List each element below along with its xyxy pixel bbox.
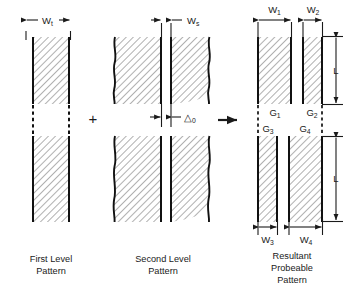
resultant-bar-upper-right <box>303 37 322 104</box>
caption-second-level-line-2: Pattern <box>148 266 178 276</box>
caption-resultant-line-3: Pattern <box>277 275 307 285</box>
resultant-bar-lower-left <box>258 136 277 222</box>
label-l-upper: L <box>333 65 338 76</box>
first-level-bar-upper <box>33 37 69 104</box>
caption-second-level-line-1: Second Level <box>135 254 191 264</box>
resultant-bar-lower-right <box>289 136 322 222</box>
caption-resultant: Resultant Probeable Pattern <box>271 251 313 285</box>
second-level-bar-left-lower <box>114 136 161 222</box>
caption-resultant-line-2: Probeable <box>271 263 313 273</box>
second-level-bar-right-upper <box>171 37 210 104</box>
label-l-lower: L <box>333 173 338 184</box>
operator-plus: + <box>89 110 98 127</box>
caption-first-level-line-1: First Level <box>30 254 72 264</box>
first-level-bar-lower <box>33 136 69 222</box>
second-level-bar-left-upper <box>114 37 161 104</box>
caption-resultant-line-1: Resultant <box>273 251 312 261</box>
overlay-pattern-diagram: Wt + <box>0 0 350 292</box>
resultant-bar-upper-left <box>258 37 291 104</box>
figure-container: Wt + <box>0 0 350 292</box>
caption-first-level-line-2: Pattern <box>36 266 66 276</box>
second-level-bar-right-lower <box>171 136 210 222</box>
